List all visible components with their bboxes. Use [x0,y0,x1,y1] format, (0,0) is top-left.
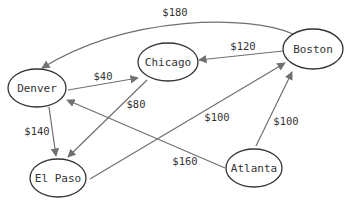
edge-label-denver-elpaso: $140 [24,125,49,137]
node-label: Atlanta [231,162,277,175]
edge-label-atlanta-denver: $160 [172,155,197,167]
node-label: Boston [293,43,333,56]
node-atlanta[interactable]: Atlanta [226,149,282,187]
edge-label-atlanta-boston: $100 [273,115,298,127]
node-denver[interactable]: Denver [8,69,66,107]
edge-chicago-elpaso [68,80,147,157]
node-chicago[interactable]: Chicago [138,43,198,81]
edge-label-boston-chicago: $120 [230,40,255,52]
node-label: Chicago [145,56,191,69]
edge-atlanta-denver [67,100,225,168]
edge-atlanta-boston [256,72,292,146]
node-boston[interactable]: Boston [283,29,343,69]
node-elpaso[interactable]: El Paso [30,159,86,197]
edge-label-boston-denver: $180 [162,6,187,18]
edge-label-denver-chicago: $40 [94,70,113,82]
edge-denver-elpaso [49,107,56,156]
route-graph: $180 $120 $40 $80 $140 $100 $100 $160 De… [0,0,346,206]
edge-label-chicago-elpaso: $80 [127,98,146,110]
edge-label-elpaso-boston: $100 [204,111,229,123]
edge-boston-chicago [199,51,283,60]
node-label: El Paso [35,172,81,185]
node-label: Denver [17,82,57,95]
